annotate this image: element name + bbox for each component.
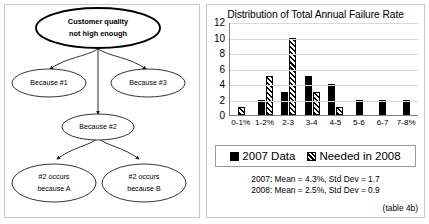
node-occurs-a-label-line2: because A	[37, 185, 70, 193]
gridline	[230, 54, 418, 55]
gridline	[230, 85, 418, 86]
y-tick-label: 8	[219, 49, 225, 59]
legend-label-needed-2008: Needed in 2008	[319, 150, 400, 162]
gridline	[230, 101, 418, 102]
x-tick-label: 4-5	[324, 118, 348, 127]
node-root-label-line2: not high enough	[69, 29, 127, 38]
bar	[313, 92, 320, 115]
x-tick-label: 3-4	[300, 118, 324, 127]
plot-wrapper: 121086420 0-1%1-2%2-33-44-55-66-77-8%	[211, 23, 418, 131]
gridline	[230, 23, 418, 24]
table-caption: (table 4b)	[383, 203, 418, 213]
chart-legend: 2007 Data Needed in 2008	[215, 145, 416, 167]
node-because-3-label: Because #3	[129, 79, 167, 87]
bar	[336, 107, 343, 115]
x-tick-label: 2-3	[276, 118, 300, 127]
bar	[403, 100, 410, 116]
legend-label-2007-data: 2007 Data	[242, 150, 295, 162]
node-occurs-a[interactable]: #2 occurs because A	[12, 164, 96, 202]
connector-root-to-because3	[98, 49, 146, 69]
y-tick-label: 2	[219, 96, 225, 106]
x-tick-label: 5-6	[347, 118, 371, 127]
stats-line-2008: 2008: Mean = 2.5%, Std Dev = 0.9	[207, 185, 424, 196]
y-axis: 121086420	[211, 23, 227, 116]
figure-root: Customer quality not high enough Because…	[0, 0, 429, 224]
connector-root-to-because1	[50, 49, 98, 69]
node-because-2-label: Because #2	[79, 123, 117, 131]
bar	[258, 100, 265, 116]
legend-item-needed-2008: Needed in 2008	[307, 150, 400, 162]
node-occurs-a-label-line1: #2 occurs	[39, 173, 70, 181]
node-root-label-line1: Customer quality	[68, 17, 129, 26]
x-axis-labels: 0-1%1-2%2-33-44-55-66-77-8%	[229, 118, 418, 127]
node-because-1[interactable]: Because #1	[12, 69, 86, 97]
node-occurs-b[interactable]: #2 occurs because B	[102, 164, 186, 202]
bar	[305, 76, 312, 115]
cause-diagram-panel: Customer quality not high enough Because…	[4, 4, 200, 218]
gridline	[230, 39, 418, 40]
connector-because2-to-b	[98, 138, 139, 159]
node-because-1-label: Because #1	[30, 79, 68, 87]
node-root[interactable]: Customer quality not high enough	[36, 8, 160, 48]
bar	[266, 76, 273, 115]
gridline	[230, 70, 418, 71]
chart-title: Distribution of Total Annual Failure Rat…	[207, 9, 424, 20]
connector-because2-to-a	[57, 138, 98, 159]
bar	[356, 100, 363, 116]
node-occurs-b-ellipse	[102, 164, 186, 202]
y-tick-label: 10	[214, 34, 225, 44]
y-tick-label: 12	[214, 18, 225, 28]
bar	[379, 100, 386, 116]
node-occurs-b-label-line1: #2 occurs	[129, 173, 160, 181]
node-because-3[interactable]: Because #3	[111, 69, 185, 97]
y-tick-label: 6	[219, 65, 225, 75]
cause-diagram-svg: Customer quality not high enough Because…	[5, 5, 199, 217]
x-tick-label: 6-7	[371, 118, 395, 127]
bar	[289, 38, 296, 116]
plot-area	[229, 23, 418, 116]
stats-line-2007: 2007: Mean = 4.3%, Std Dev = 1.7	[207, 174, 424, 185]
legend-item-2007-data: 2007 Data	[230, 150, 295, 162]
chart-statistics: 2007: Mean = 4.3%, Std Dev = 1.7 2008: M…	[207, 174, 424, 197]
node-occurs-b-label-line2: because B	[127, 185, 161, 193]
x-tick-label: 0-1%	[229, 118, 253, 127]
x-tick-label: 1-2%	[253, 118, 277, 127]
bar	[281, 92, 288, 115]
node-occurs-a-ellipse	[12, 164, 96, 202]
bar	[328, 84, 335, 115]
y-tick-label: 4	[219, 80, 225, 90]
node-because-2[interactable]: Because #2	[62, 114, 134, 140]
legend-swatch-solid-icon	[230, 152, 239, 161]
bar	[238, 107, 245, 115]
failure-rate-chart-panel: Distribution of Total Annual Failure Rat…	[206, 4, 425, 218]
legend-swatch-hatch-icon	[307, 152, 316, 161]
x-tick-label: 7-8%	[394, 118, 418, 127]
y-tick-label: 0	[219, 111, 225, 121]
